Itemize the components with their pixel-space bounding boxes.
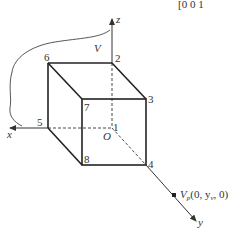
visible-edges	[48, 63, 146, 165]
vertex-label-7: 7	[84, 101, 90, 113]
viewpoint-label: Vp(0, yv, 0)	[180, 188, 229, 202]
region-label: V	[94, 42, 102, 54]
z-axis-label: z	[115, 13, 121, 25]
matrix-fragment: [0 0 1	[178, 0, 204, 10]
cube-projection-diagram: [0 0 1 z x y O V 1 2 3 4 5 6 7 8 Vp(0, y…	[0, 0, 237, 236]
vertex-label-6: 6	[44, 51, 50, 63]
origin-label: O	[103, 130, 111, 142]
y-axis-label: y	[197, 216, 203, 228]
vertex-label-8: 8	[84, 153, 90, 165]
vertex-label-5: 5	[37, 116, 43, 128]
vertex-label-4: 4	[148, 158, 154, 170]
y-axis	[146, 165, 196, 221]
viewpoint-dot	[172, 193, 176, 197]
vertex-label-2: 2	[115, 52, 121, 64]
x-axis-label: x	[6, 128, 12, 140]
vertex-label-3: 3	[148, 93, 154, 105]
vertex-label-1: 1	[113, 121, 119, 133]
